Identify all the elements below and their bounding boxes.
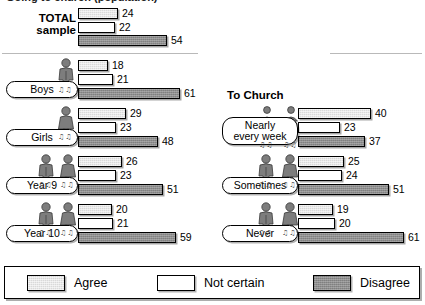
barvalue-total-disagree: 54 — [171, 35, 183, 46]
bar-sometimes-notcertain — [298, 170, 342, 181]
clipped-header-text: Going to church (population) — [6, 0, 158, 3]
barvalue-year9-notcertain: 23 — [120, 170, 132, 181]
legend-item-notcertain: Not certain — [157, 275, 264, 291]
girl-feet-icon: ♫♫ — [58, 133, 73, 141]
year9-feet-right-icon: ♫♫ — [60, 181, 75, 189]
legend: Agree Not certain Disagree — [4, 266, 420, 299]
barvalue-girls-disagree: 48 — [162, 136, 174, 147]
bar-total-notcertain — [78, 22, 115, 33]
legend-swatch-notcertain — [157, 275, 195, 291]
bar-nearly-disagree — [298, 136, 365, 147]
legend-label-agree: Agree — [74, 276, 107, 290]
barvalue-never-notcertain: 20 — [339, 218, 351, 229]
bar-total-disagree — [78, 35, 167, 46]
chart-canvas: Going to church (population) TOTAL sampl… — [0, 0, 425, 305]
barvalue-nearly-agree: 40 — [375, 108, 387, 119]
bar-never-agree — [298, 204, 333, 215]
bar-sometimes-disagree — [298, 184, 389, 195]
bar-year10-notcertain — [78, 218, 113, 229]
bar-girls-notcertain — [78, 122, 116, 133]
group-label-nearly-text: Nearly every week — [233, 120, 286, 142]
nearly-feet-right-icon: ♫♫ — [283, 141, 298, 149]
bar-boys-notcertain — [78, 74, 113, 85]
bar-year9-notcertain — [78, 170, 116, 181]
bar-sometimes-agree — [298, 156, 344, 167]
sometimes-feet-left-icon: ♫♫ — [258, 181, 273, 189]
barvalue-year10-notcertain: 21 — [117, 218, 129, 229]
never-feet-right-icon: ♫♫ — [282, 229, 297, 237]
barvalue-year9-disagree: 51 — [167, 184, 179, 195]
bar-total-agree — [78, 8, 118, 19]
bar-girls-agree — [78, 108, 126, 119]
legend-label-notcertain: Not certain — [204, 276, 264, 290]
barvalue-year9-agree: 26 — [126, 156, 138, 167]
bar-never-notcertain — [298, 218, 335, 229]
barvalue-total-notcertain: 22 — [119, 22, 131, 33]
bar-year10-disagree — [78, 232, 176, 243]
bar-year10-agree — [78, 204, 112, 215]
clipped-header: Going to church (population) — [0, 0, 425, 4]
legend-item-disagree: Disagree — [313, 275, 410, 291]
total-sample-label: TOTAL sample — [4, 12, 76, 36]
bar-never-disagree — [298, 232, 404, 243]
bar-year9-agree — [78, 156, 122, 167]
barvalue-nearly-notcertain: 23 — [344, 122, 356, 133]
bar-boys-disagree — [78, 88, 180, 99]
barvalue-never-agree: 19 — [337, 204, 349, 215]
year10-feet-right-icon: ♫♫ — [60, 229, 75, 237]
barvalue-year10-disagree: 59 — [180, 232, 192, 243]
legend-swatch-agree — [27, 275, 65, 291]
barvalue-nearly-disagree: 37 — [369, 136, 381, 147]
year10-feet-left-icon: ♫♫ — [38, 229, 53, 237]
barvalue-never-disagree: 61 — [408, 232, 420, 243]
barvalue-boys-notcertain: 21 — [117, 74, 129, 85]
barvalue-total-agree: 24 — [122, 8, 134, 19]
legend-swatch-disagree — [313, 275, 351, 291]
bar-nearly-agree — [298, 108, 371, 119]
bar-nearly-notcertain — [298, 122, 340, 133]
barvalue-boys-agree: 18 — [112, 60, 124, 71]
barvalue-sometimes-disagree: 51 — [393, 184, 405, 195]
bar-year9-disagree — [78, 184, 163, 195]
divider-total-right — [330, 53, 422, 54]
year9-feet-left-icon: ♫♫ — [38, 181, 53, 189]
divider-total — [2, 53, 198, 54]
section-title-to-church: To Church — [227, 89, 284, 101]
barvalue-sometimes-notcertain: 24 — [346, 170, 358, 181]
legend-label-disagree: Disagree — [360, 276, 410, 290]
barvalue-sometimes-agree: 25 — [348, 156, 360, 167]
barvalue-boys-disagree: 61 — [184, 88, 196, 99]
sometimes-feet-right-icon: ♫♫ — [282, 181, 297, 189]
nearly-feet-left-icon: ♫♫ — [259, 141, 274, 149]
boy-feet-icon: ♫♫ — [58, 86, 73, 94]
bar-girls-disagree — [78, 136, 158, 147]
barvalue-girls-agree: 29 — [130, 108, 142, 119]
bar-boys-agree — [78, 60, 108, 71]
legend-item-agree: Agree — [27, 275, 107, 291]
barvalue-year10-agree: 20 — [116, 204, 128, 215]
barvalue-girls-notcertain: 23 — [120, 122, 132, 133]
never-feet-left-icon: ♫♫ — [258, 229, 273, 237]
